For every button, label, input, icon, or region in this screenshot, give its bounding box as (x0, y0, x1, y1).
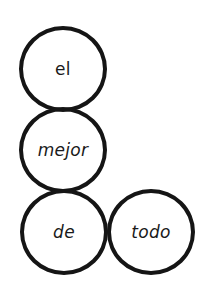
circle-todo: todo (107, 189, 195, 275)
circle-label-el: el (55, 59, 71, 79)
circle-el: el (19, 26, 107, 112)
circle-mejor: mejor (19, 107, 107, 193)
circle-de: de (20, 189, 108, 275)
circle-label-todo: todo (131, 222, 170, 242)
circle-label-mejor: mejor (38, 140, 89, 160)
circle-label-de: de (53, 222, 75, 242)
